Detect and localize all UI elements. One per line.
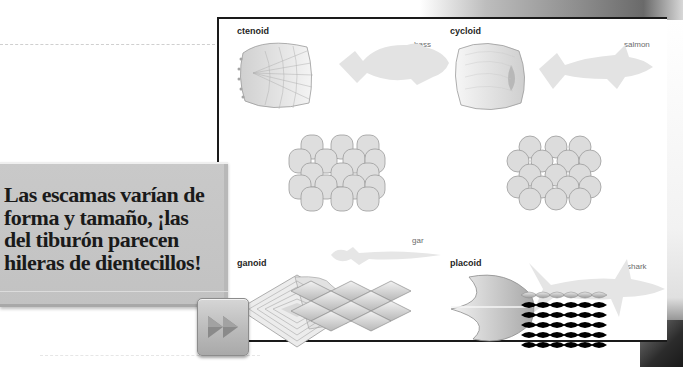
label-ganoid: ganoid [237, 258, 267, 268]
label-placoid: placoid [450, 258, 482, 268]
label-ctenoid: ctenoid [237, 26, 269, 36]
ganoid-scales-pattern-icon [291, 277, 413, 339]
caption-panel: Las escamas varían de forma y tamaño, ¡l… [0, 162, 228, 307]
decorative-dashed-line [0, 44, 215, 45]
caption-line-3: del tiburón parecen [4, 229, 229, 252]
cycloid-scales-pattern-icon [504, 131, 604, 213]
cycloid-scale-icon [451, 39, 529, 113]
fish-scales-figure: ctenoid bass cycloid salmon [217, 17, 667, 342]
next-button[interactable] [197, 298, 249, 356]
ctenoid-scales-pattern-icon [287, 131, 387, 213]
bass-silhouette-icon [337, 39, 452, 89]
fast-forward-icon [208, 316, 240, 338]
caption-line-4: hileras de dientecillos! [4, 252, 229, 275]
caption-divider [0, 291, 228, 292]
salmon-silhouette-icon [537, 45, 655, 93]
caption-text: Las escamas varían de forma y tamaño, ¡l… [4, 184, 229, 274]
label-cycloid: cycloid [450, 26, 481, 36]
gar-silhouette-icon [329, 243, 444, 269]
caption-line-2: forma y tamaño, ¡las [4, 207, 229, 230]
placoid-scales-pattern-icon [519, 289, 615, 351]
ctenoid-scale-icon [235, 39, 317, 111]
caption-line-1: Las escamas varían de [4, 184, 229, 207]
